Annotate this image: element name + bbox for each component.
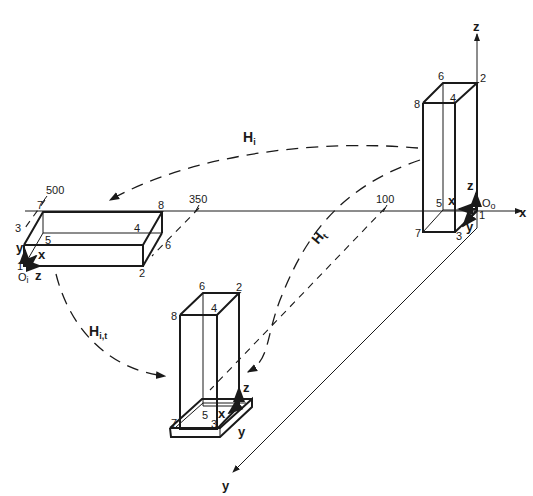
h-t-label: Ht — [308, 227, 330, 249]
h-i-label: Hi — [243, 129, 256, 147]
bottom-block: 6 2 8 4 5 7 3 z x y — [170, 280, 252, 439]
bottom-local-x-label: x — [218, 406, 226, 421]
bottom-vertex-8: 8 — [171, 310, 177, 322]
right-vertex-3: 3 — [456, 230, 462, 242]
right-local-z-label: z — [467, 178, 474, 193]
bottom-vertex-2: 2 — [236, 281, 242, 293]
left-vertex-6: 6 — [165, 239, 171, 251]
left-block: 7 8 3 4 5 6 1 2 y x z Oi — [15, 199, 171, 285]
bottom-vertex-7: 7 — [171, 417, 177, 429]
diagram-canvas: x z y 500 350 100 7 8 3 4 — [0, 0, 533, 496]
bottom-vertex-4: 4 — [211, 302, 217, 314]
transform-h-t: Ht — [248, 160, 420, 372]
left-vertex-4: 4 — [134, 222, 140, 234]
transform-h-i: Hi — [110, 129, 418, 200]
dimension-500: 500 — [46, 184, 64, 196]
right-vertex-1: 1 — [479, 209, 485, 221]
coordinate-transform-diagram: x z y 500 350 100 7 8 3 4 — [0, 0, 533, 496]
x-axis-label: x — [519, 205, 527, 220]
right-local-y-label: y — [466, 219, 474, 234]
right-vertex-7: 7 — [415, 227, 421, 239]
dimension-350: 350 — [189, 193, 207, 205]
left-local-y-label: y — [16, 240, 24, 255]
dimension-lines: 500 350 100 — [25, 184, 394, 390]
right-vertex-5: 5 — [436, 197, 442, 209]
bottom-vertex-3: 3 — [211, 418, 217, 430]
transform-h-it: Hi,t — [56, 274, 165, 376]
right-origin-label: Oo — [482, 197, 496, 211]
left-vertex-7: 7 — [37, 199, 43, 211]
right-vertex-8: 8 — [414, 98, 420, 110]
left-vertex-2: 2 — [139, 267, 145, 279]
bottom-local-z-label: z — [243, 380, 250, 395]
right-vertex-4: 4 — [450, 92, 456, 104]
left-origin-label: Oi — [18, 271, 29, 285]
h-it-label: Hi,t — [89, 323, 107, 341]
left-vertex-8: 8 — [158, 199, 164, 211]
dimension-100: 100 — [376, 193, 394, 205]
bottom-local-y-label: y — [238, 424, 246, 439]
right-vertex-6: 6 — [438, 70, 444, 82]
y-axis-label: y — [222, 478, 230, 493]
left-vertex-3: 3 — [15, 222, 21, 234]
bottom-vertex-6: 6 — [199, 280, 205, 292]
left-vertex-5: 5 — [45, 234, 51, 246]
right-vertex-2: 2 — [480, 72, 486, 84]
right-local-x-label: x — [448, 193, 456, 208]
bottom-vertex-5: 5 — [202, 409, 208, 421]
left-local-z-label: z — [35, 268, 42, 283]
z-axis-label: z — [473, 19, 480, 34]
left-local-x-label: x — [38, 247, 46, 262]
right-block: 6 2 8 4 5 7 1 3 z x y Oo — [414, 70, 496, 242]
